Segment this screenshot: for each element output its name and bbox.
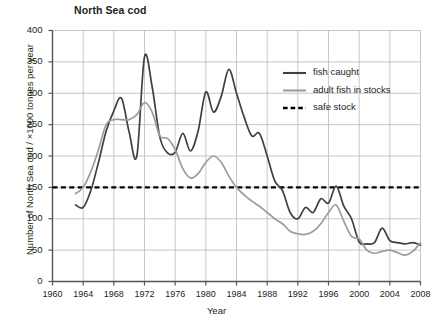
y-tick-label: 400: [9, 24, 43, 35]
y-tick-label: 0: [9, 275, 43, 286]
legend-label-adult-fish-in-stocks: adult fish in stocks: [313, 84, 391, 95]
y-tick-label: 300: [9, 87, 43, 98]
y-tick-label: 350: [9, 55, 43, 66]
y-tick-label: 200: [9, 150, 43, 161]
x-tick-label: 2008: [401, 289, 433, 299]
y-tick-label: 100: [9, 212, 43, 223]
chart-canvas: North Sea cod Number of North Sea cod / …: [0, 0, 433, 324]
y-tick-label: 150: [9, 181, 43, 192]
legend-label-fish-caught: fish caught: [313, 66, 359, 77]
chart-plot: [0, 0, 433, 324]
y-tick-label: 250: [9, 118, 43, 129]
legend-label-safe-stock: safe stock: [313, 101, 356, 112]
y-tick-label: 50: [9, 244, 43, 255]
